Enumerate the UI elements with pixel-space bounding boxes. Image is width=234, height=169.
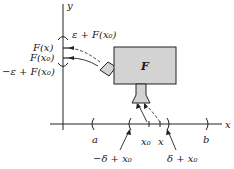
label-x: x [158, 136, 164, 147]
function-input-funnel [132, 84, 150, 103]
label-minus-eps-plus-fx0: −ε + F(x₀) [2, 66, 55, 77]
arrow-fx0-solid [70, 58, 98, 66]
epsilon-delta-diagram: y x ε + F(x₀) F(x) F(x₀) −ε + F(x₀) F a … [0, 0, 234, 169]
function-label: F [140, 60, 150, 73]
function-machine: F [100, 47, 176, 103]
label-minus-delta-plus-x0: −δ + x₀ [93, 153, 132, 164]
label-a: a [92, 134, 98, 145]
arrowhead-left-delta [126, 129, 131, 135]
arrowhead-right-delta [166, 129, 171, 135]
x-axis-label: x [225, 119, 231, 130]
label-x0: x₀ [141, 136, 151, 147]
label-fx0: F(x₀) [29, 52, 54, 63]
arrowhead-fx0 [68, 56, 74, 60]
y-axis-label: y [66, 0, 73, 11]
label-eps-plus-fx0: ε + F(x₀) [72, 29, 117, 40]
label-delta-plus-x0: δ + x₀ [167, 153, 197, 164]
arrowhead-fx [68, 46, 74, 50]
label-b: b [203, 134, 209, 145]
